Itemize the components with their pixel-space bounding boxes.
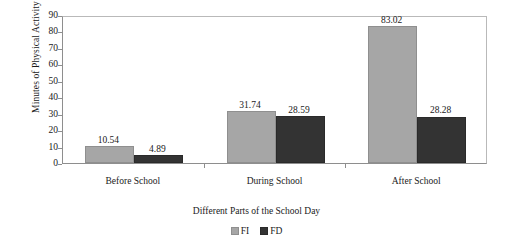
legend-entry-fi: FI xyxy=(231,226,249,236)
legend-entry-fd: FD xyxy=(260,226,282,236)
y-tick-label: 30 xyxy=(38,110,58,120)
y-tick-mark xyxy=(58,16,62,17)
y-tick-label: 80 xyxy=(38,28,58,38)
bar-value-label: 83.02 xyxy=(361,15,422,25)
chart-legend: FIFD xyxy=(0,224,513,238)
y-tick-label: 20 xyxy=(38,126,58,136)
bar-value-label: 28.59 xyxy=(269,105,330,115)
y-tick-label: 0 xyxy=(38,159,58,169)
dark-gray-square-icon xyxy=(260,227,268,235)
x-tick-mark xyxy=(345,164,346,168)
light-gray-square-icon xyxy=(231,227,239,235)
y-tick-mark xyxy=(58,82,62,83)
y-tick-label: 10 xyxy=(38,143,58,153)
y-axis-tick-labels: 0102030405060708090 xyxy=(36,16,58,164)
y-tick-mark xyxy=(58,164,62,165)
y-tick-mark xyxy=(58,148,62,149)
y-tick-label: 70 xyxy=(38,44,58,54)
y-tick-mark xyxy=(58,115,62,116)
bar-fd-after-school xyxy=(417,117,466,164)
y-tick-mark xyxy=(58,32,62,33)
y-tick-mark xyxy=(58,49,62,50)
legend-label: FI xyxy=(241,226,249,236)
y-tick-label: 50 xyxy=(38,77,58,87)
x-category-label: After School xyxy=(346,176,486,187)
bar-fi-during-school xyxy=(227,111,276,163)
y-tick-label: 60 xyxy=(38,61,58,71)
legend-label: FD xyxy=(270,226,282,236)
x-axis-title: Different Parts of the School Day xyxy=(0,205,513,217)
bar-value-label: 28.28 xyxy=(410,105,471,115)
x-category-label: Before School xyxy=(63,176,203,187)
y-tick-mark xyxy=(58,98,62,99)
bar-fd-during-school xyxy=(276,116,325,163)
bar-chart-figure: Minutes of Physical Activity 01020304050… xyxy=(0,0,513,246)
y-tick-label: 40 xyxy=(38,93,58,103)
y-tick-mark xyxy=(58,131,62,132)
y-tick-label: 90 xyxy=(38,11,58,21)
bar-value-label: 4.89 xyxy=(127,144,188,154)
bar-fi-after-school xyxy=(368,26,417,163)
x-tick-mark xyxy=(204,164,205,168)
x-category-label: During School xyxy=(205,176,345,187)
y-tick-mark xyxy=(58,65,62,66)
bar-fd-before-school xyxy=(134,155,183,163)
